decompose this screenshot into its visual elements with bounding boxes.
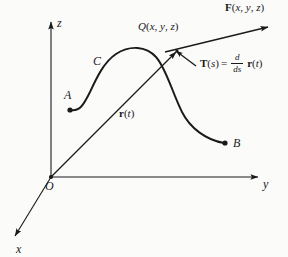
origin-label: O	[45, 180, 54, 192]
vector-r-label: r(t)	[119, 108, 134, 119]
point-q-marker	[175, 49, 178, 52]
point-q-close-paren: )	[175, 20, 179, 32]
point-a-marker	[67, 107, 72, 112]
curve-label-c: C	[93, 55, 101, 67]
vector-f-close-paren: )	[260, 1, 264, 13]
figure-drawing-canvas	[0, 0, 288, 257]
vector-r-close-paren: )	[131, 107, 135, 119]
derivative-denominator: ds	[231, 64, 243, 74]
vector-t-lhs: T(s)	[200, 58, 219, 69]
y-axis-label: y	[263, 178, 268, 190]
vector-t-operand-close-paren: )	[259, 57, 263, 69]
point-a-label: A	[64, 89, 71, 101]
derivative-numerator: d	[233, 53, 242, 63]
vector-f-symbol: F	[225, 1, 232, 13]
point-b-marker	[222, 140, 227, 145]
vector-t-equation: T(s) = d ds r(t)	[200, 53, 263, 74]
point-q-label: Q(x, y, z)	[138, 21, 178, 32]
point-b-label: B	[233, 137, 240, 149]
vector-t-close-paren: )	[215, 57, 219, 69]
position-vector-r	[51, 52, 176, 177]
vector-t-operand: r(t)	[247, 58, 262, 69]
derivative-operator: d ds	[231, 53, 243, 74]
z-axis-label: z	[57, 17, 62, 29]
field-vector-f	[165, 27, 268, 52]
point-q-symbol: Q	[138, 20, 146, 32]
x-axis-label: x	[16, 243, 21, 255]
vector-f-label: F(x, y, z)	[225, 2, 264, 13]
tangent-vector-t	[176, 51, 196, 66]
vector-calculus-figure: z y x O C A B Q(x, y, z) F(x, y, z) r(t)…	[0, 0, 288, 257]
vector-t-equals-sign: =	[221, 58, 227, 69]
